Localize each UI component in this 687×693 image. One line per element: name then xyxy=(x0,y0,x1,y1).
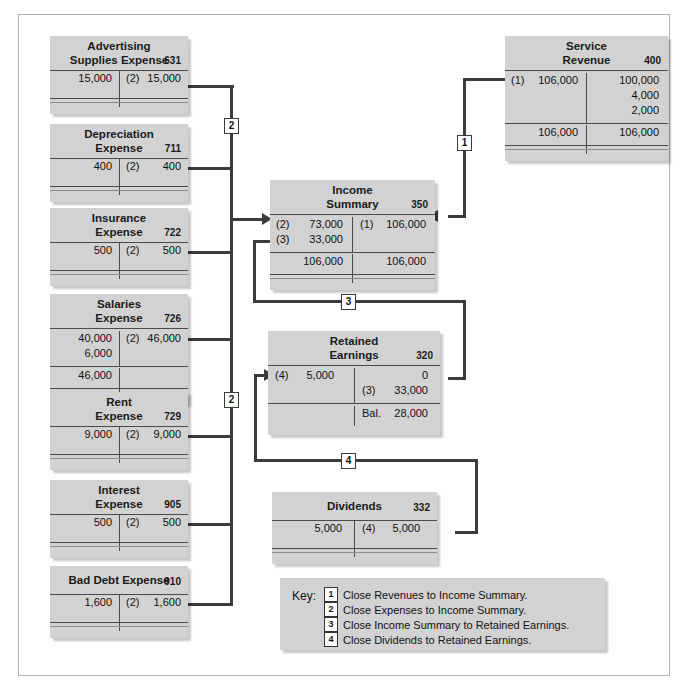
account-footer xyxy=(50,449,188,463)
account-body: (4)5,000 0 (3)33,000 xyxy=(268,368,440,403)
credit-amount: 4,000 xyxy=(631,88,659,103)
account-footer xyxy=(50,181,188,195)
credit-amount: 9,000 xyxy=(153,427,181,442)
account-header: Income Summary 350 xyxy=(270,180,435,214)
account-number: 711 xyxy=(165,142,181,156)
connector-1-into-is xyxy=(448,215,466,218)
debit-amount: 33,000 xyxy=(309,232,343,247)
credit-ref: (2) xyxy=(126,515,139,530)
t-account-salaries-expense: Salaries Expense 726 40,000 (2)46,000 6,… xyxy=(50,294,188,404)
account-number: 905 xyxy=(164,498,181,512)
balance-amount: 28,000 xyxy=(394,406,428,421)
t-account-bad-debt-expense: Bad Debt Expense 910 1,600 (2)1,600 xyxy=(50,566,188,638)
account-title-line1: Dividends xyxy=(272,500,437,514)
account-footer xyxy=(50,265,188,279)
t-account-interest-expense: Interest Expense 905 500 (2)500 xyxy=(50,480,188,558)
connector-2-into-is xyxy=(230,218,266,221)
credit-ref: (2) xyxy=(126,331,139,346)
account-title-line2: Earnings xyxy=(268,349,440,363)
account-subtotal-row: 46,000 xyxy=(50,368,188,386)
credit-amount: 2,000 xyxy=(631,103,659,118)
debit-amount: 5,000 xyxy=(314,521,342,536)
t-account-dividends: Dividends 332 5,000 (4)5,000 xyxy=(272,492,437,564)
debit-amount: 500 xyxy=(94,243,112,258)
badge-2-lower: 2 xyxy=(224,392,239,408)
account-header: Advertising Supplies Expense 631 xyxy=(50,36,188,70)
credit-amount: 0 xyxy=(422,368,428,383)
account-body: (1)106,000 100,000 4,000 2,000 xyxy=(505,73,668,123)
connector-2-dep xyxy=(185,167,233,170)
credit-amount: 500 xyxy=(163,515,181,530)
debit-amount: 6,000 xyxy=(84,346,112,361)
t-account-depreciation-expense: Depreciation Expense 711 400 (2)400 xyxy=(50,124,188,202)
account-header: Retained Earnings 320 xyxy=(268,331,440,365)
account-header: Insurance Expense 722 xyxy=(50,208,188,242)
credit-amount: 500 xyxy=(163,243,181,258)
debit-amount: 1,600 xyxy=(84,595,112,610)
credit-amount: 106,000 xyxy=(386,217,426,232)
account-header: Interest Expense 905 xyxy=(50,480,188,514)
credit-ref: (3) xyxy=(362,383,375,398)
account-footer xyxy=(270,272,435,283)
debit-amount: 400 xyxy=(94,159,112,174)
key-text: Close Revenues to Income Summary. xyxy=(343,589,527,601)
connector-2-bad xyxy=(185,603,233,606)
connector-4-up xyxy=(475,459,478,534)
credit-ref: (2) xyxy=(126,71,139,86)
credit-total: 106,000 xyxy=(619,125,659,140)
debit-amount: 73,000 xyxy=(309,217,343,232)
key-badge-3: 3 xyxy=(324,617,338,632)
account-total-row: 106,000 106,000 xyxy=(270,254,435,272)
account-body: 40,000 (2)46,000 6,000 xyxy=(50,331,188,366)
account-title-line2: Summary xyxy=(270,198,435,212)
account-number: 722 xyxy=(164,226,181,240)
badge-1: 1 xyxy=(457,135,472,151)
account-footer xyxy=(272,543,437,557)
account-title-line1: Retained xyxy=(268,335,440,349)
connector-4-across xyxy=(254,459,478,462)
account-footer xyxy=(50,537,188,551)
badge-3: 3 xyxy=(341,294,356,310)
account-header: Depreciation Expense 711 xyxy=(50,124,188,158)
key-badge-1: 1 xyxy=(324,587,338,602)
account-number: 726 xyxy=(164,312,181,326)
credit-amount: 46,000 xyxy=(147,331,181,346)
connector-2-rent xyxy=(185,435,233,438)
key-text: Close Expenses to Income Summary. xyxy=(343,604,526,616)
credit-total: 106,000 xyxy=(386,254,426,269)
account-footer xyxy=(505,143,668,154)
debit-amount: 15,000 xyxy=(78,71,112,86)
account-body: (2)73,000 (1)106,000 (3)33,000 xyxy=(270,217,435,252)
key-item: 3Close Income Summary to Retained Earnin… xyxy=(324,617,569,632)
debit-ref: (3) xyxy=(276,232,289,247)
debit-total: 106,000 xyxy=(538,125,578,140)
account-title-line1: Depreciation xyxy=(50,128,188,142)
closing-entries-diagram: 2 2 1 3 4 Advertising Supplies Expense 6… xyxy=(0,0,687,693)
key-text: Close Income Summary to Retained Earning… xyxy=(343,619,569,631)
account-number: 320 xyxy=(416,349,433,363)
credit-amount: 400 xyxy=(163,159,181,174)
account-number: 400 xyxy=(644,54,661,68)
credit-ref: (2) xyxy=(126,243,139,258)
connector-4-up2 xyxy=(254,374,257,462)
credit-ref: (1) xyxy=(360,217,373,232)
account-header: Bad Debt Expense 910 xyxy=(50,566,188,594)
badge-4: 4 xyxy=(341,453,356,469)
credit-amount: 15,000 xyxy=(147,71,181,86)
account-body: 500 (2)500 xyxy=(50,515,188,537)
credit-ref: (2) xyxy=(126,159,139,174)
connector-2-trunk-top xyxy=(230,85,233,220)
account-title-line1: Service xyxy=(505,40,668,54)
connector-3-down2 xyxy=(463,300,466,380)
account-total-row: 106,000 106,000 xyxy=(505,125,668,143)
key-item: 2Close Expenses to Income Summary. xyxy=(324,602,569,617)
account-title-line1: Interest xyxy=(50,484,188,498)
account-title-line1: Salaries xyxy=(50,298,188,312)
account-body: 1,600 (2)1,600 xyxy=(50,595,188,617)
account-balance-row: Bal.28,000 xyxy=(268,406,440,426)
debit-amount: 40,000 xyxy=(78,331,112,346)
account-body: 9,000 (2)9,000 xyxy=(50,427,188,449)
connector-1-top xyxy=(463,78,507,81)
t-account-income-summary: Income Summary 350 (2)73,000 (1)106,000 … xyxy=(270,180,435,290)
account-body: 5,000 (4)5,000 xyxy=(272,521,437,543)
